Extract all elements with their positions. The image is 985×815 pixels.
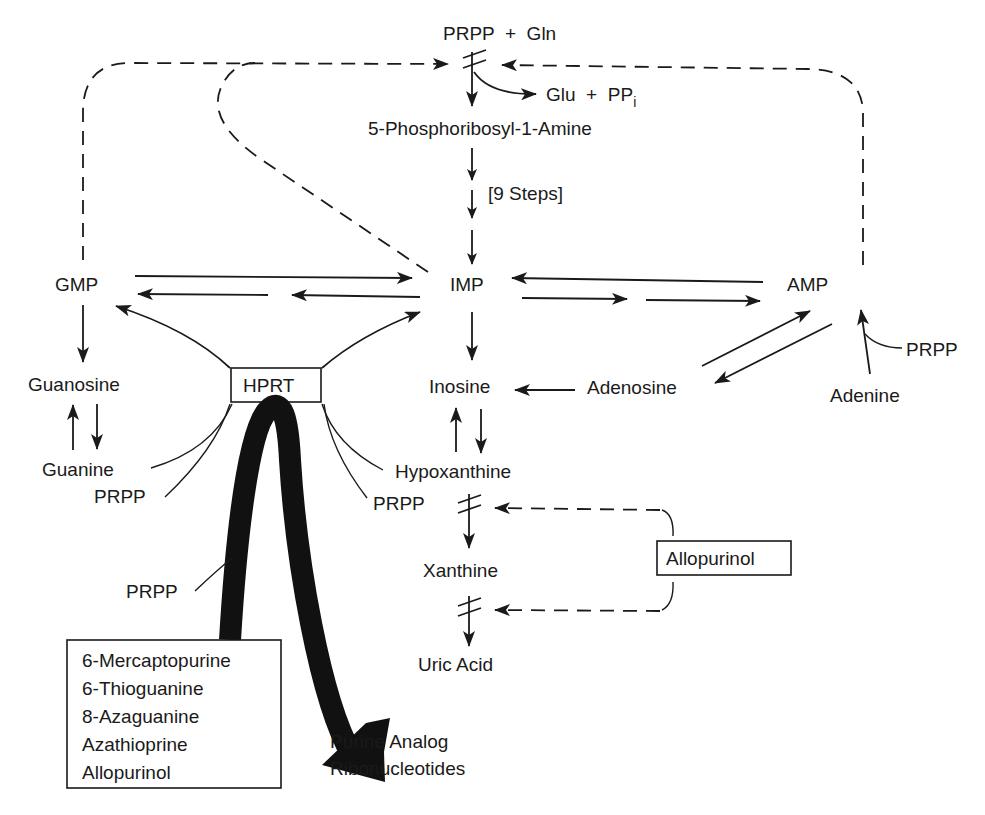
node-adenosine: Adenosine [587,377,677,398]
feedback-imp-to-top [218,63,428,272]
drug-item: Allopurinol [82,762,171,783]
purine-pathway-diagram: PRPP + Gln Glu + PPi 5-Phosphoribosyl-1-… [0,0,985,815]
arrow-amp-to-imp [512,278,763,282]
node-uric-acid: Uric Acid [418,654,493,675]
feedback-inhibition-mark-top [463,50,486,68]
arrow-imp-to-amp-a [522,298,627,299]
drug-item: 6-Thioguanine [82,678,203,699]
node-5-phosphoribosyl-1-amine: 5-Phosphoribosyl-1-Amine [368,118,592,139]
prpp-joining-adenine [865,334,902,348]
allopurinol-bracket-top [662,510,673,536]
arrow-amp-to-adenosine [715,324,832,383]
node-glu-ppi: Glu + PPi [546,84,636,110]
allopurinol-inhibit-2 [495,610,660,611]
line-hypoxanthine-to-hprt [322,404,383,470]
line-prpp-hypoxanthine-to-hprt [324,404,367,498]
node-allopurinol-inhibitor: Allopurinol [666,548,755,569]
arrow-hprt-to-imp [322,312,420,368]
arrow-hprt-to-gmp [116,306,230,368]
arrow-adenosine-to-amp [702,311,810,366]
node-hypoxanthine: Hypoxanthine [395,461,511,482]
node-imp: IMP [450,274,484,295]
node-purine-analog-ribonucleotides-2: Ribonucleotides [330,758,465,779]
node-xanthine: Xanthine [423,560,498,581]
node-amp: AMP [787,274,828,295]
node-inosine: Inosine [429,376,490,397]
drug-item: 8-Azaguanine [82,706,199,727]
node-guanine: Guanine [42,459,114,480]
node-guanosine: Guanosine [28,374,120,395]
allopurinol-inhibit-1 [495,508,660,510]
arrow-imp-to-amp-b [646,300,760,301]
node-hprt: HPRT [243,375,295,396]
drug-item: 6-Mercaptopurine [82,650,231,671]
node-prpp-hypoxanthine: PRPP [373,493,425,514]
line-guanine-to-hprt [151,404,232,468]
arrow-imp-to-gmp-b [292,295,420,297]
line-prpp-guanine-to-hprt [165,404,230,497]
arrow-adenine-to-amp [861,310,870,374]
allopurinol-bracket-bottom [662,582,673,610]
drug-item: Azathioprine [82,734,188,755]
arrow-imp-to-gmp-a [138,294,268,295]
node-adenine: Adenine [830,385,900,406]
arrow-gmp-to-imp [135,276,412,278]
node-prpp-gln: PRPP + Gln [443,23,556,44]
node-prpp-analogs: PRPP [126,581,178,602]
node-gmp: GMP [55,274,98,295]
arrow-to-glu-ppi [474,72,536,94]
node-prpp-adenine: PRPP [906,339,958,360]
label-9-steps: [9 Steps] [488,183,563,204]
node-prpp-guanine: PRPP [94,486,146,507]
node-purine-analog-ribonucleotides-1: Purine Analog [330,731,448,752]
